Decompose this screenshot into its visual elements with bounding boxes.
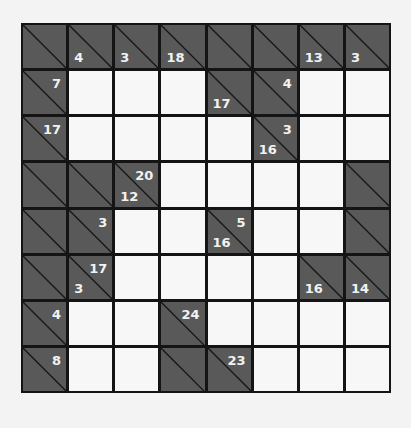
entry-cell[interactable] bbox=[208, 163, 251, 206]
across-clue: 17 bbox=[43, 123, 61, 136]
entry-cell[interactable] bbox=[300, 302, 343, 345]
clue-cell: 3 bbox=[115, 25, 158, 68]
across-clue: 3 bbox=[283, 123, 292, 136]
clue-cell: 17 bbox=[208, 71, 251, 114]
entry-cell[interactable] bbox=[115, 117, 158, 160]
down-clue: 13 bbox=[305, 51, 323, 64]
entry-cell[interactable] bbox=[208, 256, 251, 299]
entry-cell[interactable] bbox=[161, 256, 204, 299]
entry-cell[interactable] bbox=[254, 302, 297, 345]
clue-cell: 23 bbox=[208, 348, 251, 391]
entry-cell[interactable] bbox=[115, 210, 158, 253]
down-clue: 16 bbox=[305, 282, 323, 295]
clue-cell: 13 bbox=[300, 25, 343, 68]
kakuro-board: 4318133717417316201235161731614424823 bbox=[21, 23, 391, 393]
across-clue: 23 bbox=[228, 354, 246, 367]
entry-cell[interactable] bbox=[346, 117, 389, 160]
entry-cell[interactable] bbox=[254, 210, 297, 253]
clue-cell: 4 bbox=[23, 302, 66, 345]
diagonal-divider-icon bbox=[346, 210, 389, 253]
diagonal-divider-icon bbox=[23, 25, 66, 68]
clue-cell: 16 bbox=[300, 256, 343, 299]
clue-cell: 2012 bbox=[115, 163, 158, 206]
block-cell bbox=[23, 25, 66, 68]
down-clue: 16 bbox=[259, 143, 277, 156]
clue-cell: 316 bbox=[254, 117, 297, 160]
entry-cell[interactable] bbox=[254, 256, 297, 299]
diagonal-divider-icon bbox=[23, 256, 66, 299]
down-clue: 17 bbox=[213, 97, 231, 110]
across-clue: 4 bbox=[52, 308, 61, 321]
clue-cell: 17 bbox=[23, 117, 66, 160]
entry-cell[interactable] bbox=[300, 163, 343, 206]
clue-cell: 24 bbox=[161, 302, 204, 345]
entry-cell[interactable] bbox=[115, 302, 158, 345]
clue-cell: 4 bbox=[69, 25, 112, 68]
clue-cell: 3 bbox=[69, 210, 112, 253]
entry-cell[interactable] bbox=[69, 71, 112, 114]
entry-cell[interactable] bbox=[300, 117, 343, 160]
clue-cell: 14 bbox=[346, 256, 389, 299]
down-clue: 3 bbox=[74, 282, 83, 295]
across-clue: 8 bbox=[52, 354, 61, 367]
entry-cell[interactable] bbox=[346, 302, 389, 345]
across-clue: 20 bbox=[135, 169, 153, 182]
entry-cell[interactable] bbox=[115, 348, 158, 391]
entry-cell[interactable] bbox=[346, 71, 389, 114]
across-clue: 7 bbox=[52, 77, 61, 90]
entry-cell[interactable] bbox=[69, 348, 112, 391]
entry-cell[interactable] bbox=[161, 117, 204, 160]
block-cell bbox=[69, 163, 112, 206]
diagonal-divider-icon bbox=[69, 163, 112, 206]
entry-cell[interactable] bbox=[300, 348, 343, 391]
down-clue: 16 bbox=[213, 236, 231, 249]
entry-cell[interactable] bbox=[208, 117, 251, 160]
diagonal-divider-icon bbox=[161, 348, 204, 391]
down-clue: 14 bbox=[351, 282, 369, 295]
across-clue: 5 bbox=[237, 216, 246, 229]
clue-cell: 18 bbox=[161, 25, 204, 68]
down-clue: 3 bbox=[120, 51, 129, 64]
down-clue: 18 bbox=[166, 51, 184, 64]
diagonal-divider-icon bbox=[346, 163, 389, 206]
block-cell bbox=[346, 210, 389, 253]
entry-cell[interactable] bbox=[254, 348, 297, 391]
entry-cell[interactable] bbox=[346, 348, 389, 391]
across-clue: 24 bbox=[181, 308, 199, 321]
entry-cell[interactable] bbox=[69, 117, 112, 160]
diagonal-divider-icon bbox=[208, 25, 251, 68]
down-clue: 3 bbox=[351, 51, 360, 64]
block-cell bbox=[23, 210, 66, 253]
clue-cell: 7 bbox=[23, 71, 66, 114]
clue-cell: 4 bbox=[254, 71, 297, 114]
block-cell bbox=[254, 25, 297, 68]
entry-cell[interactable] bbox=[300, 210, 343, 253]
entry-cell[interactable] bbox=[161, 163, 204, 206]
clue-cell: 173 bbox=[69, 256, 112, 299]
diagonal-divider-icon bbox=[23, 163, 66, 206]
across-clue: 4 bbox=[283, 77, 292, 90]
block-cell bbox=[161, 348, 204, 391]
entry-cell[interactable] bbox=[115, 256, 158, 299]
entry-cell[interactable] bbox=[69, 302, 112, 345]
diagonal-divider-icon bbox=[23, 210, 66, 253]
entry-cell[interactable] bbox=[208, 302, 251, 345]
clue-cell: 3 bbox=[346, 25, 389, 68]
entry-cell[interactable] bbox=[161, 210, 204, 253]
block-cell bbox=[208, 25, 251, 68]
clue-cell: 8 bbox=[23, 348, 66, 391]
block-cell bbox=[23, 163, 66, 206]
across-clue: 17 bbox=[89, 262, 107, 275]
clue-cell: 516 bbox=[208, 210, 251, 253]
entry-cell[interactable] bbox=[161, 71, 204, 114]
diagonal-divider-icon bbox=[254, 25, 297, 68]
down-clue: 12 bbox=[120, 190, 138, 203]
down-clue: 4 bbox=[74, 51, 83, 64]
entry-cell[interactable] bbox=[254, 163, 297, 206]
block-cell bbox=[346, 163, 389, 206]
entry-cell[interactable] bbox=[300, 71, 343, 114]
entry-cell[interactable] bbox=[115, 71, 158, 114]
across-clue: 3 bbox=[98, 216, 107, 229]
block-cell bbox=[23, 256, 66, 299]
